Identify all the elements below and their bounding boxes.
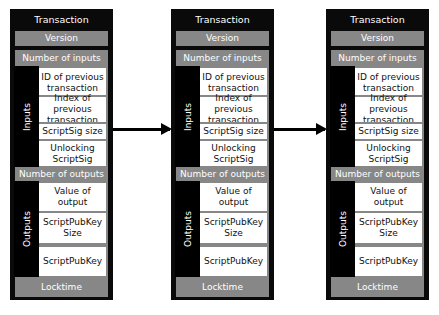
output-field-scriptpubkey-size: ScriptPubKey Size: [200, 212, 269, 245]
version-band: Version: [15, 31, 108, 46]
input-field-unlocking-scriptsig: Unlocking ScriptSig: [200, 139, 269, 167]
output-field-scriptpubkey: ScriptPubKey: [39, 245, 108, 277]
output-field-value: Value of output: [355, 181, 424, 212]
inputs-rail: Inputs: [330, 66, 355, 167]
transaction-title: Transaction: [326, 11, 429, 29]
transaction-title: Transaction: [171, 11, 274, 29]
number-of-inputs-band: Number of inputs: [15, 50, 108, 66]
outputs-rail: Outputs: [330, 181, 355, 277]
inputs-label: Inputs: [22, 103, 32, 131]
transaction-block-2: Transaction Version Number of inputs Inp…: [171, 9, 274, 300]
output-field-value: Value of output: [200, 181, 269, 212]
inputs-rail: Inputs: [175, 66, 200, 167]
input-field-prev-tx-index: Index of previous transaction: [200, 95, 269, 122]
arrow-right-icon: [113, 128, 170, 131]
number-of-inputs-band: Number of inputs: [176, 50, 269, 66]
number-of-outputs-band: Number of outputs: [15, 167, 108, 181]
output-field-scriptpubkey: ScriptPubKey: [355, 245, 424, 277]
number-of-inputs-band: Number of inputs: [331, 50, 424, 66]
locktime-band: Locktime: [176, 277, 269, 297]
input-field-scriptsig-size: ScriptSig size: [200, 122, 269, 139]
input-field-scriptsig-size: ScriptSig size: [39, 122, 108, 139]
outputs-rail: Outputs: [175, 181, 200, 277]
output-field-scriptpubkey: ScriptPubKey: [200, 245, 269, 277]
locktime-band: Locktime: [331, 277, 424, 297]
locktime-band: Locktime: [15, 277, 108, 297]
outputs-label: Outputs: [183, 211, 193, 247]
input-field-prev-tx-index: Index of previous transaction: [355, 95, 424, 122]
transaction-block-1: Transaction Version Number of inputs Inp…: [10, 9, 113, 300]
input-field-prev-tx-index: Index of previous transaction: [39, 95, 108, 122]
outputs-rail: Outputs: [14, 181, 39, 277]
inputs-rail: Inputs: [14, 66, 39, 167]
inputs-label: Inputs: [338, 103, 348, 131]
input-field-unlocking-scriptsig: Unlocking ScriptSig: [39, 139, 108, 167]
transaction-title: Transaction: [10, 11, 113, 29]
version-band: Version: [176, 31, 269, 46]
transaction-block-3: Transaction Version Number of inputs Inp…: [326, 9, 429, 300]
number-of-outputs-band: Number of outputs: [331, 167, 424, 181]
inputs-label: Inputs: [183, 103, 193, 131]
input-field-scriptsig-size: ScriptSig size: [355, 122, 424, 139]
arrow-right-icon: [274, 128, 325, 131]
outputs-label: Outputs: [338, 211, 348, 247]
version-band: Version: [331, 31, 424, 46]
output-field-scriptpubkey-size: ScriptPubKey Size: [39, 212, 108, 245]
output-field-scriptpubkey-size: ScriptPubKey Size: [355, 212, 424, 245]
number-of-outputs-band: Number of outputs: [176, 167, 269, 181]
input-field-unlocking-scriptsig: Unlocking ScriptSig: [355, 139, 424, 167]
outputs-label: Outputs: [22, 211, 32, 247]
output-field-value: Value of output: [39, 181, 108, 212]
